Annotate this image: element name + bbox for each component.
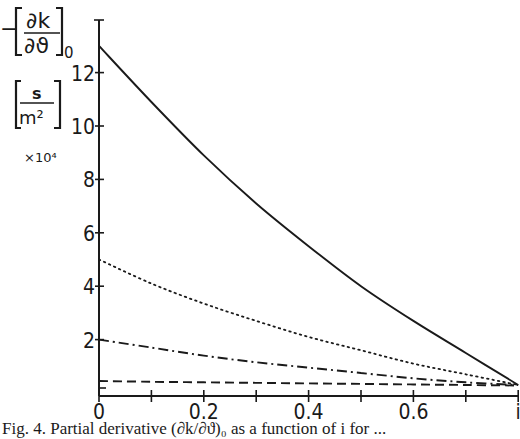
bracket-right: [56, 8, 62, 55]
y-tick-label: 8: [83, 168, 95, 192]
series-dashed: [99, 381, 518, 386]
figure-caption: Fig. 4. Partial derivative (∂k/∂ϑ)₀ as a…: [2, 419, 386, 439]
unit-numerator: s: [32, 84, 42, 103]
y-label-subscript: 0: [64, 44, 74, 62]
series-dotted: [99, 260, 518, 385]
y-tick-label: 4: [83, 275, 95, 299]
x-tick-label: 0.6: [398, 400, 428, 424]
y-tick-label: 2: [83, 329, 95, 353]
y-axis-label: − ∂k ∂ϑ 0 s m² ×10⁴: [0, 8, 74, 165]
y-scale-label: ×10⁴: [24, 150, 57, 165]
y-tick-label: 12: [71, 62, 95, 86]
unit-bracket-right: [54, 81, 60, 128]
unit-denominator: m²: [19, 107, 44, 128]
bracket-left: [16, 8, 22, 55]
series-solid: [99, 46, 518, 385]
y-label-numerator: ∂k: [26, 8, 50, 33]
x-tick-label: i: [516, 400, 520, 424]
y-tick-label: 6: [83, 222, 95, 246]
y-label-denominator: ∂ϑ: [24, 33, 49, 58]
series-lines: [99, 46, 518, 386]
y-tick-label: 10: [71, 115, 95, 139]
